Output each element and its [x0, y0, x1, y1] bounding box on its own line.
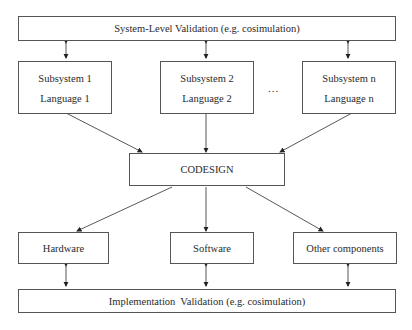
subsystem-1-box: Subsystem 1 Language 1 [18, 61, 112, 114]
subsystem-language: Language 1 [40, 93, 89, 104]
system-level-validation-label: System-Level Validation (e.g. cosimulati… [114, 23, 300, 34]
subsystem-n-box: Subsystem n Language n [302, 61, 396, 114]
implementation-validation-label: Implementation Validation (e.g. cosimula… [109, 296, 305, 307]
codesign-label: CODESIGN [180, 164, 233, 175]
subsystem-language: Language 2 [182, 93, 231, 104]
hardware-box: Hardware [18, 232, 109, 264]
ellipsis: ... [268, 82, 279, 94]
other-components-label: Other components [306, 243, 383, 254]
subsystem-name: Subsystem 1 [38, 73, 91, 84]
software-box: Software [170, 232, 254, 264]
system-level-validation-box: System-Level Validation (e.g. cosimulati… [18, 16, 396, 41]
hardware-label: Hardware [43, 243, 84, 254]
implementation-validation-box: Implementation Validation (e.g. cosimula… [18, 289, 396, 313]
other-components-box: Other components [293, 232, 397, 264]
software-label: Software [193, 243, 231, 254]
subsystem-name: Subsystem n [322, 73, 375, 84]
subsystem-name: Subsystem 2 [180, 73, 233, 84]
codesign-box: CODESIGN [129, 153, 285, 186]
subsystem-2-box: Subsystem 2 Language 2 [160, 61, 254, 114]
subsystem-language: Language n [324, 93, 373, 104]
